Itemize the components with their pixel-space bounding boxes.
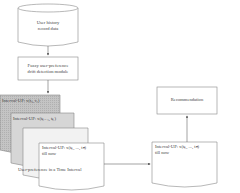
module-label: Fuzzy user-preference drift detection mo… <box>18 63 78 74</box>
recommendation-label: Recommendation <box>157 97 217 103</box>
card-2-label: Interval-UP: x(tₖ₋₁, tₖ) <box>13 116 73 122</box>
stack-caption: User-preference in a Time Interval <box>18 167 108 173</box>
database-label: User history record data <box>18 20 78 31</box>
database-label-line2: record data <box>18 26 78 32</box>
card-4-label-line2: till now <box>42 151 104 157</box>
selected-doc-line2: till now <box>155 150 217 156</box>
selected-doc-label: Interval-UP: x(tₖ, ..., tₙ) till now <box>155 144 217 156</box>
card-1-label: Interval-UP: x(t₀, t₁) <box>2 98 60 104</box>
card-4-label: Interval-UP: x(tₖ, ..., tₙ) till now <box>42 145 104 157</box>
module-label-line2: drift detection module <box>18 69 78 75</box>
